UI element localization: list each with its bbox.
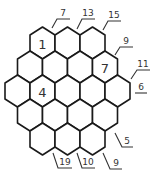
clue-pointer <box>103 21 121 30</box>
clue-label: 6 <box>138 82 144 92</box>
hex-cell[interactable] <box>55 123 80 155</box>
clue-13-top: 13 <box>77 8 95 29</box>
hex-cell-shape[interactable] <box>30 123 55 155</box>
clue-label: 7 <box>60 8 66 18</box>
clue-pointer <box>131 70 150 79</box>
hex-cell-shape[interactable] <box>80 123 105 155</box>
clue-11-right-upper: 11 <box>131 59 150 79</box>
clue-label: 19 <box>59 157 71 167</box>
hex-cell[interactable] <box>80 123 105 155</box>
clue-label: 11 <box>137 59 148 69</box>
clue-6-right: 6 <box>135 82 147 93</box>
clue-label: 5 <box>124 136 130 146</box>
clue-5-right-lower: 5 <box>115 133 133 147</box>
clue-7-top: 7 <box>52 8 70 28</box>
clue-label: 9 <box>123 36 129 46</box>
clue-label: 13 <box>82 8 93 18</box>
hex-puzzle-board: 174 7 13 15 9 11 6 5 9 10 19 <box>0 0 151 176</box>
hex-cell-shape[interactable] <box>55 123 80 155</box>
clue-19-bottom: 19 <box>53 153 72 168</box>
hex-cell[interactable] <box>30 123 55 155</box>
clue-15-top: 15 <box>103 10 121 30</box>
clue-9-bottom: 9 <box>103 153 122 169</box>
clue-label: 9 <box>113 158 119 168</box>
clue-label: 15 <box>108 10 119 20</box>
clue-9-right-upper: 9 <box>115 36 133 55</box>
clue-pointer <box>115 47 133 55</box>
clue-label: 10 <box>82 157 94 167</box>
hex-cells: 174 <box>5 27 130 155</box>
